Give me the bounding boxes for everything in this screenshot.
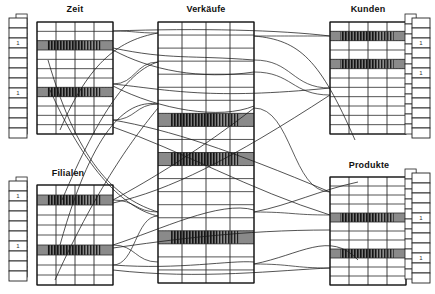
index-mark: 1 — [419, 215, 423, 221]
table-label-produkte: Produkte — [338, 160, 400, 170]
table-label-zeit: Zeit — [55, 4, 95, 14]
index-mark: 1 — [16, 243, 20, 249]
index-mark: 1 — [16, 90, 20, 96]
index-mark: 1 — [419, 255, 423, 261]
index-mark: 1 — [419, 70, 423, 76]
index-mark: 1 — [419, 40, 423, 46]
index-marks-layer: 11111111 — [0, 0, 435, 294]
diagram-canvas: 11111111 Zeit Filialen Verkäufe Kunden P… — [0, 0, 435, 294]
table-label-kunden: Kunden — [342, 4, 394, 14]
table-label-verkaeufe: Verkäufe — [173, 4, 239, 14]
index-mark: 1 — [16, 40, 20, 46]
index-mark: 1 — [16, 193, 20, 199]
table-label-filialen: Filialen — [40, 168, 96, 178]
